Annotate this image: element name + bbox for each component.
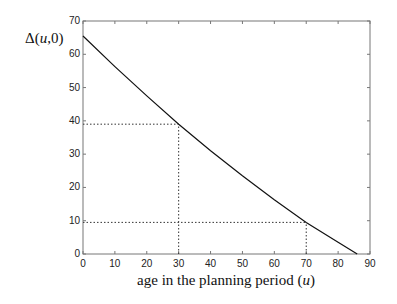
x-label-var: u (302, 272, 310, 288)
y-tick-label: 30 (69, 148, 81, 159)
y-tick-label: 20 (69, 181, 81, 192)
y-tick-label: 10 (69, 215, 81, 226)
x-label-suffix: ) (310, 272, 315, 288)
y-label-prefix: Δ( (25, 30, 40, 46)
x-axis-label: age in the planning period (u) (0, 272, 397, 289)
x-tick-label: 90 (364, 258, 376, 269)
x-tick-label: 70 (301, 258, 313, 269)
x-tick-label: 10 (109, 258, 121, 269)
x-tick-label: 0 (80, 258, 86, 269)
x-label-prefix: age in the planning period ( (137, 272, 302, 288)
x-tick-label: 50 (237, 258, 249, 269)
chart: 0102030405060708090010203040506070 Δ(u,0… (0, 0, 397, 304)
series-line (83, 36, 357, 254)
x-tick-label: 20 (141, 258, 153, 269)
y-tick-label: 70 (69, 15, 81, 26)
y-tick-label: 60 (69, 48, 81, 59)
axes-box (83, 21, 370, 254)
x-tick-label: 40 (205, 258, 217, 269)
y-axis-label: Δ(u,0) (25, 30, 63, 47)
y-tick-label: 50 (69, 82, 81, 93)
x-tick-label: 60 (269, 258, 281, 269)
x-tick-label: 30 (173, 258, 185, 269)
y-tick-label: 40 (69, 115, 81, 126)
x-tick-label: 80 (333, 258, 345, 269)
y-label-suffix: ,0) (47, 30, 63, 46)
y-tick-label: 0 (74, 248, 80, 259)
